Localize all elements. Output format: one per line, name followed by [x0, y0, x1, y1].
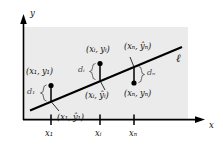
regression-figure: y x ℓ (x₁, y₁) (x₁, ŷ₁) d₁ (xᵢ, yᵢ) (xᵢ,…: [0, 0, 223, 150]
point-n-observed-label: (xₙ, yₙ): [124, 88, 151, 98]
residual-i-label: dᵢ: [78, 65, 85, 74]
point-i-predicted-label: (xᵢ, ŷᵢ): [85, 90, 109, 100]
x-tick-label-n: xₙ: [129, 128, 137, 138]
point-n-predicted-label: (xₙ, ŷₙ): [124, 41, 151, 51]
x-axis-label: x: [209, 120, 214, 130]
y-axis-label: y: [30, 8, 35, 18]
residual-1-label: d₁: [27, 87, 35, 96]
regression-line-label: ℓ: [176, 52, 181, 65]
x-tick-label-i: xᵢ: [95, 128, 101, 138]
point-1-observed-label: (x₁, y₁): [26, 66, 53, 76]
point-i-observed-label: (xᵢ, yᵢ): [86, 44, 110, 54]
x-tick-label-1: x₁: [45, 128, 53, 138]
point-1-predicted-label: (x₁, ŷ₁): [57, 112, 84, 122]
residual-n-label: dₙ: [147, 68, 155, 77]
